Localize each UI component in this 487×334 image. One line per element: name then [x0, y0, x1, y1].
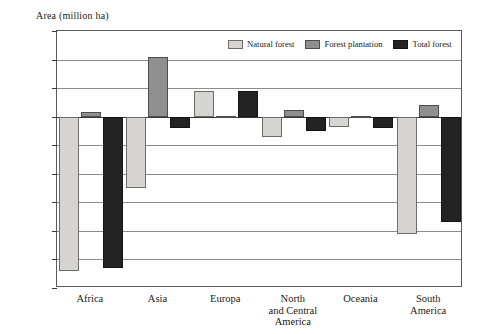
legend-label: Natural forest [247, 39, 294, 49]
bar-natural [194, 91, 214, 117]
bar-natural [126, 117, 146, 188]
x-axis-category-label: Africa [56, 293, 124, 305]
legend-swatch-natural [228, 40, 243, 49]
legend-swatch-total [393, 40, 408, 49]
y-tick-mark [52, 288, 57, 289]
bar-group [125, 31, 193, 286]
bar-natural [397, 117, 417, 234]
x-axis-category-label: Oceania [327, 293, 395, 305]
x-axis-category-label: South America [394, 293, 462, 316]
plot-area [56, 30, 462, 287]
legend-item: Total forest [393, 39, 451, 49]
bar-total [306, 117, 326, 131]
bar-group [395, 31, 463, 286]
bar-group [192, 31, 260, 286]
legend-label: Total forest [412, 39, 451, 49]
legend-label: Forest plantation [324, 39, 382, 49]
bar-group [57, 31, 125, 286]
forest-area-change-chart: Area (million ha) 3.02.01.00.0–1.0–2.0–3… [0, 0, 487, 334]
bar-total [373, 117, 393, 128]
bar-total [441, 117, 461, 223]
bar-plantation [284, 110, 304, 117]
bar-total [238, 91, 258, 117]
bar-natural [329, 117, 349, 127]
bar-group [328, 31, 396, 286]
legend-item: Natural forest [228, 39, 294, 49]
y-axis-title: Area (million ha) [36, 10, 109, 21]
bar-natural [59, 117, 79, 271]
bar-groups [57, 31, 461, 286]
chart-legend: Natural forestForest plantationTotal for… [228, 39, 452, 49]
bar-plantation [216, 116, 236, 118]
x-axis-category-label: North and Central America [259, 293, 327, 328]
x-axis-category-label: Asia [124, 293, 192, 305]
bar-natural [262, 117, 282, 137]
bar-plantation [351, 116, 371, 118]
bar-total [170, 117, 190, 128]
x-axis-category-label: Europa [191, 293, 259, 305]
bar-total [103, 117, 123, 268]
bar-plantation [148, 57, 168, 117]
bar-group [260, 31, 328, 286]
legend-swatch-plantation [305, 40, 320, 49]
bar-plantation [81, 112, 101, 116]
legend-item: Forest plantation [305, 39, 382, 49]
bar-plantation [419, 105, 439, 116]
